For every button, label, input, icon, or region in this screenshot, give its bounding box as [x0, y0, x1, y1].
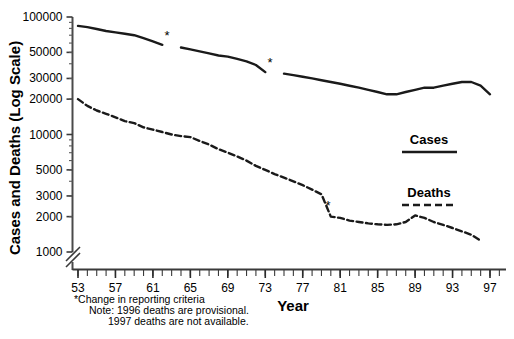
x-axis-minor-ticks	[78, 270, 499, 276]
annotation-asterisk: *	[267, 55, 272, 70]
x-tick-label: 77	[296, 281, 310, 295]
y-tick-label: 5000	[36, 163, 63, 177]
y-axis-tick-labels: 1000005000030000200001000050003000200010…	[22, 10, 62, 259]
series-path-deaths	[78, 99, 481, 241]
y-axis-title: Cases and Deaths (Log Scale)	[6, 41, 23, 255]
x-tick-label: 93	[446, 281, 460, 295]
footnote-line-3: 1997 deaths are not available.	[108, 315, 249, 327]
series-cases-line	[78, 26, 490, 94]
y-tick-label: 2000	[36, 210, 63, 224]
y-tick-label: 3000	[36, 189, 63, 203]
line-chart: Cases and Deaths (Log Scale) 10000050000…	[0, 0, 514, 339]
series-deaths-line	[78, 99, 481, 241]
legend: Cases Deaths	[402, 132, 457, 205]
y-tick-label: 30000	[29, 71, 63, 85]
annotation-asterisk: *	[325, 198, 330, 213]
legend-label-cases: Cases	[410, 132, 448, 147]
x-tick-label: 97	[483, 281, 497, 295]
series-path-cases	[284, 74, 490, 95]
x-tick-label: 89	[408, 281, 422, 295]
x-axis-title: Year	[277, 297, 309, 314]
annotation-markers: ***	[164, 28, 330, 214]
x-tick-label: 69	[221, 281, 235, 295]
series-path-cases	[78, 26, 162, 45]
x-tick-label: 73	[259, 281, 273, 295]
x-tick-label: 81	[334, 281, 348, 295]
y-tick-label: 20000	[29, 92, 63, 106]
y-tick-label: 100000	[22, 10, 62, 24]
chart-root: Cases and Deaths (Log Scale) 10000050000…	[0, 0, 514, 339]
x-tick-label: 85	[371, 281, 385, 295]
legend-label-deaths: Deaths	[407, 185, 450, 200]
y-tick-label: 1000	[36, 245, 63, 259]
series-path-cases	[181, 48, 265, 73]
annotation-asterisk: *	[164, 28, 169, 43]
y-tick-label: 10000	[29, 128, 63, 142]
y-tick-label: 50000	[29, 45, 63, 59]
